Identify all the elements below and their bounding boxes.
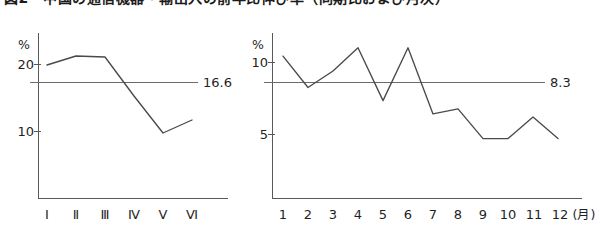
- left-x-tick-label-5: Ⅴ: [159, 207, 168, 222]
- left-x-tick-label-2: Ⅱ: [73, 207, 79, 222]
- left-chart-axes: [39, 33, 229, 199]
- right-x-tick-label-5: 5: [379, 207, 387, 222]
- figure-page: 図2 中国の通信機器・輸出入の前年比伸び率（同期比および月次） % 20 10 …: [0, 0, 605, 241]
- right-x-tick-label-6: 6: [404, 207, 412, 222]
- left-y-tick-label-10: 10: [17, 124, 34, 139]
- right-x-tick-label-3: 3: [329, 207, 337, 222]
- right-reference-line-label: 8.3: [550, 75, 571, 90]
- right-y-tick-label-10: 10: [251, 55, 268, 70]
- right-x-tick-label-10: 10: [500, 207, 517, 222]
- left-x-tick-label-1: Ⅰ: [45, 207, 49, 222]
- right-x-tick-label-8: 8: [454, 207, 462, 222]
- right-chart-plot: % 10 5 8.3 1 2 3 4 5 6 7 8 9 10 1: [250, 0, 605, 241]
- right-x-tick-label-7: 7: [429, 207, 437, 222]
- right-x-tick-label-9: 9: [479, 207, 487, 222]
- left-x-tick-label-4: Ⅳ: [128, 207, 140, 222]
- right-x-tick-label-2: 2: [304, 207, 312, 222]
- right-x-tick-label-12: 12: [552, 207, 569, 222]
- left-y-axis-unit: %: [18, 37, 30, 52]
- left-x-tick-label-3: Ⅲ: [101, 207, 110, 222]
- right-x-tick-label-4: 4: [354, 207, 362, 222]
- right-x-tick-label-11: 11: [526, 207, 543, 222]
- left-chart-figure: % 20 10 16.6 Ⅰ Ⅱ Ⅲ Ⅳ Ⅴ Ⅵ: [0, 0, 250, 241]
- left-data-series: [47, 56, 192, 133]
- left-reference-line-label: 16.6: [203, 75, 232, 90]
- left-y-tick-label-20: 20: [17, 57, 34, 72]
- right-chart-axes: [273, 33, 583, 199]
- right-y-axis-unit: %: [252, 37, 264, 52]
- right-x-tick-label-1: 1: [279, 207, 287, 222]
- left-x-tick-label-6: Ⅵ: [186, 207, 198, 222]
- right-data-series: [283, 48, 558, 139]
- left-chart-plot: % 20 10 16.6 Ⅰ Ⅱ Ⅲ Ⅳ Ⅴ Ⅵ: [0, 0, 250, 241]
- right-chart-figure: % 10 5 8.3 1 2 3 4 5 6 7 8 9 10 1: [250, 0, 605, 241]
- right-y-tick-label-5: 5: [260, 127, 268, 142]
- right-x-axis-unit: (月): [573, 207, 596, 222]
